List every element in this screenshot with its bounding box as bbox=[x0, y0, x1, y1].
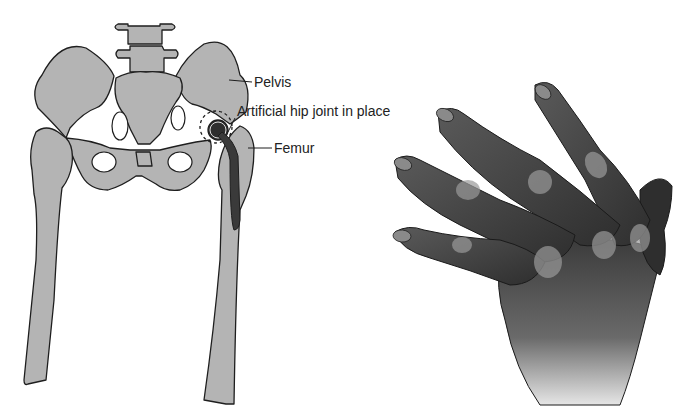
arthritic-hand-illustration bbox=[0, 0, 691, 418]
medical-figure: Pelvis Artificial hip joint in place Fem… bbox=[0, 0, 691, 418]
